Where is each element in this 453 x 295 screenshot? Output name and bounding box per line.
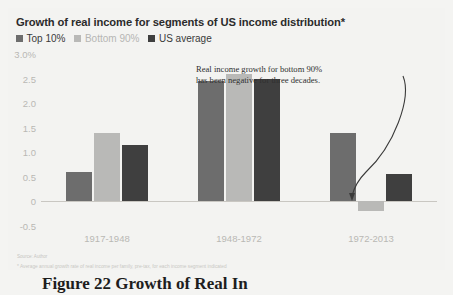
- y-axis-tick-label: 2.5: [23, 73, 36, 84]
- legend-item-bottom-90: Bottom 90%: [74, 33, 139, 44]
- gridline: -0.5: [41, 226, 437, 227]
- chart-title: Growth of real income for segments of US…: [16, 16, 345, 28]
- bar: [330, 133, 356, 202]
- annotation-line-1: Real income growth for bottom 90%: [196, 64, 322, 74]
- bar-group: [41, 54, 173, 226]
- legend-item-us-average: US average: [148, 33, 211, 44]
- bar: [386, 174, 412, 201]
- figure-caption: Figure 22 Growth of Real In: [42, 274, 248, 295]
- annotation-line-2: has been negative for three decades.: [196, 75, 320, 85]
- legend-swatch-icon: [16, 35, 23, 42]
- legend-item-top-10: Top 10%: [16, 33, 65, 44]
- y-axis-tick-label: 2.0: [23, 98, 36, 109]
- bar: [254, 79, 280, 202]
- bar: [122, 145, 148, 202]
- legend-label: Bottom 90%: [85, 33, 139, 44]
- x-axis-label: 1917-1948: [41, 233, 173, 244]
- bar: [94, 133, 120, 202]
- chart-legend: Top 10%Bottom 90%US average: [16, 33, 212, 44]
- bar: [66, 172, 92, 201]
- chart-card: Growth of real income for segments of US…: [8, 8, 445, 270]
- bar: [358, 201, 384, 211]
- y-axis-tick-label: 0.5: [23, 171, 36, 182]
- legend-swatch-icon: [148, 35, 155, 42]
- bar: [226, 74, 252, 202]
- x-axis-label: 1972-2013: [305, 233, 437, 244]
- x-axis-label: 1948-1972: [173, 233, 305, 244]
- y-axis-tick-label: 1.0: [23, 147, 36, 158]
- source-note: Source: Author: [17, 254, 47, 259]
- y-axis-tick-label: 3.0%: [14, 49, 36, 60]
- bar: [198, 81, 224, 201]
- y-axis-tick-label: 1.5: [23, 122, 36, 133]
- legend-swatch-icon: [74, 35, 81, 42]
- legend-label: Top 10%: [27, 33, 66, 44]
- chart-footnote: * Average annual growth rate of real inc…: [17, 264, 227, 269]
- y-axis-tick-label: 0: [31, 196, 36, 207]
- legend-label: US average: [159, 33, 212, 44]
- figure-container: Growth of real income for segments of US…: [0, 0, 453, 295]
- chart-annotation: Real income growth for bottom 90% has be…: [196, 64, 386, 87]
- y-axis-tick-label: -0.5: [20, 221, 36, 232]
